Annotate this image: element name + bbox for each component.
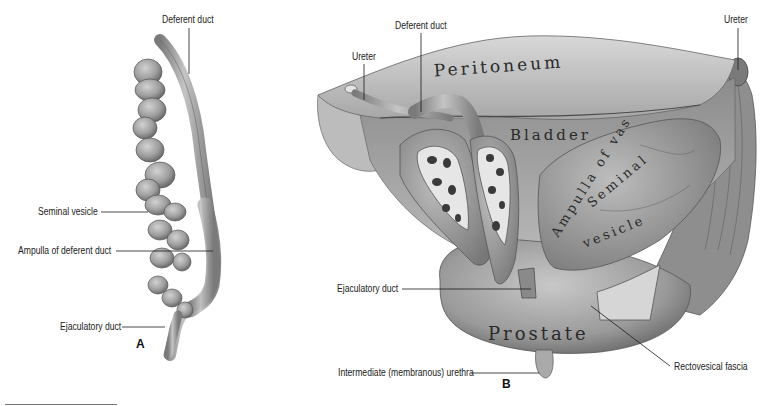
label-deferent-duct-b: Deferent duct (395, 20, 447, 32)
label-ejaculatory-duct-b: Ejaculatory duct (337, 283, 398, 295)
panel-letter-a: A (136, 337, 145, 351)
label-ureter-left: Ureter (352, 51, 376, 63)
footnote-divider (5, 404, 117, 405)
label-ampulla-of-deferent-duct: Ampulla of deferent duct (18, 245, 111, 257)
organ-label-bladder: Bladder (510, 126, 591, 144)
anatomy-figure: Peritoneum Bladder Ampulla of vas Semina… (0, 0, 781, 406)
panel-b-illustration: Peritoneum Bladder Ampulla of vas Semina… (318, 36, 757, 378)
label-rectovesical-fascia: Rectovesical fascia (674, 361, 748, 373)
panel-a-illustration (133, 40, 214, 355)
label-seminal-vesicle: Seminal vesicle (38, 206, 98, 218)
organ-label-prostate: Prostate (488, 323, 589, 344)
label-deferent-duct-a: Deferent duct (162, 14, 214, 26)
label-ejaculatory-duct-a: Ejaculatory duct (60, 321, 121, 333)
illustration: Peritoneum Bladder Ampulla of vas Semina… (0, 0, 781, 406)
label-ureter-right: Ureter (724, 14, 748, 26)
panel-letter-b: B (502, 377, 511, 391)
label-intermediate-urethra: Intermediate (membranous) urethra (338, 367, 474, 379)
